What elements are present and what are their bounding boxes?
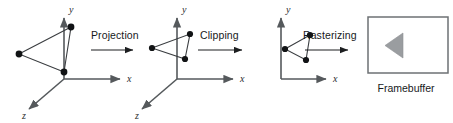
triangle-vertex [68,24,75,31]
transition-label-clipping: Clipping [200,29,239,41]
axis-label-x-stage2: x [239,73,245,84]
axis-label-y-stage3: y [285,4,291,15]
axis-label-z-stage1: z [21,110,26,121]
triangle-vertex [282,46,288,52]
triangle-stage2 [152,34,190,59]
transition-label-rasterizing: Rasterizing [303,29,357,41]
transition-clipping: Clipping [198,29,242,50]
framebuffer-caption: Framebuffer [378,82,435,94]
stage-clipped-space: x y [281,4,338,84]
axis-label-x-stage3: x [332,73,338,84]
graphics-pipeline-diagram: x y z Projection x y z [0,0,453,123]
axis-z-stage2 [142,79,177,109]
axis-label-x-stage1: x [126,73,132,84]
stage-projected-space: x y z [134,4,245,121]
axis-label-y-stage1: y [68,4,74,15]
transition-label-projection: Projection [91,29,139,41]
triangle-vertex [187,31,193,37]
pipeline-canvas: x y z Projection x y z [0,0,453,123]
stage-model-space: x y z [16,4,132,121]
transition-rasterizing: Rasterizing [303,29,357,50]
triangle-vertex [16,51,23,58]
triangle-vertex [149,45,155,51]
triangle-vertex [61,69,68,76]
framebuffer-rect [368,17,448,73]
axis-label-z-stage2: z [134,110,139,121]
axis-label-y-stage2: y [181,4,187,15]
axis-z-stage1 [29,79,64,109]
stage-framebuffer: Framebuffer [368,17,448,94]
triangle-vertex [303,57,309,63]
triangle-vertex [182,56,188,62]
transition-projection: Projection [91,29,139,50]
